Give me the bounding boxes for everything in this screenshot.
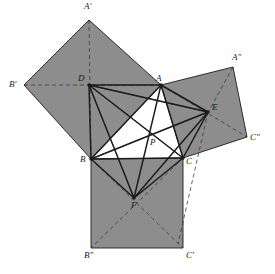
vertex-label-D: D	[78, 74, 85, 83]
geometry-canvas	[0, 0, 275, 274]
vertex-dot-D	[87, 83, 90, 86]
vertex-dot-E	[206, 110, 209, 113]
filled-regions	[24, 20, 247, 248]
vertex-label-F: F	[131, 201, 137, 210]
vertex-label-Bprime: B′	[9, 80, 16, 89]
vertex-label-P: P	[150, 138, 156, 147]
vertex-label-A: A	[156, 74, 162, 83]
vertex-label-Cdprime: C″	[250, 133, 260, 142]
vertex-dot-B	[89, 157, 92, 160]
vertex-label-Bdprime: B″	[84, 251, 93, 260]
vertex-label-Cprime: C′	[186, 251, 194, 260]
geometry-figure: ABCDEFPA′B′A″C″B″C′	[0, 0, 275, 274]
vertex-dot-C	[181, 156, 184, 159]
vertex-label-C: C	[186, 157, 192, 166]
vertex-dot-A	[159, 83, 162, 86]
vertex-label-Adprime: A″	[232, 53, 241, 62]
vertex-label-Aprime: A′	[84, 2, 91, 11]
vertex-label-E: E	[212, 103, 218, 112]
vertex-label-B: B	[80, 155, 86, 164]
